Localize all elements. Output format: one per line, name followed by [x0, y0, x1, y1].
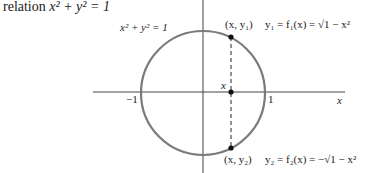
x-axis-label: x [336, 94, 342, 106]
upper-function-label: y₁ = f₁(x) = √1 − x² [265, 18, 351, 31]
lower-point-label: (x, y₂) [224, 153, 252, 166]
lower-function-label: y₂ = f₂(x) = −√1 − x² [265, 153, 357, 166]
unit-circle-figure: x² + y² = 1 (x, y₁) y₁ = f₁(x) = √1 − x²… [0, 0, 367, 173]
axis-point [228, 89, 233, 94]
point-x-label: x [220, 79, 226, 91]
upper-point [228, 34, 233, 39]
circle-equation-label: x² + y² = 1 [119, 21, 168, 33]
upper-point-label: (x, y₁) [225, 18, 253, 31]
tick-neg-one: −1 [126, 93, 138, 105]
tick-one: 1 [268, 93, 274, 105]
lower-point [228, 145, 233, 150]
